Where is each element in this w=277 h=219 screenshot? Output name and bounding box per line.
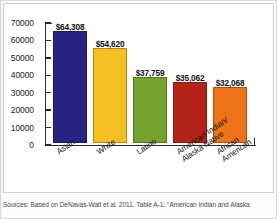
y-tick-mark <box>45 40 51 41</box>
y-tick-mark <box>45 127 51 128</box>
bar-value-label: $54,620 <box>88 39 132 49</box>
y-tick-mark <box>45 109 51 110</box>
y-tick-label: 50000 <box>3 53 34 63</box>
bar-value-label: $37,759 <box>128 68 172 78</box>
y-tick-mark <box>45 57 51 58</box>
bar-value-label: $64,308 <box>48 22 92 32</box>
y-tick-label: 0 <box>3 140 34 150</box>
y-tick-label: 60000 <box>3 35 34 45</box>
bar[interactable] <box>133 77 167 143</box>
source-caption: Sources: Based on DeNavas-Walt et al. 20… <box>3 201 274 208</box>
bar-value-label: $35,062 <box>168 73 212 83</box>
figure-container: 010000200003000040000500006000070000 $64… <box>0 0 277 219</box>
bar[interactable] <box>93 48 127 143</box>
bar[interactable] <box>53 31 87 143</box>
x-axis-end-cap <box>254 138 255 146</box>
y-tick-label: 40000 <box>3 70 34 80</box>
y-tick-label: 30000 <box>3 88 34 98</box>
y-tick-mark <box>45 92 51 93</box>
y-tick-label: 70000 <box>3 18 34 28</box>
chart-panel: 010000200003000040000500006000070000 $64… <box>3 3 274 193</box>
y-tick-label: 20000 <box>3 105 34 115</box>
y-tick-mark <box>45 144 51 145</box>
y-tick-label: 10000 <box>3 123 34 133</box>
bar-value-label: $32,068 <box>208 78 252 88</box>
y-tick-mark <box>45 75 51 76</box>
plot-area: 010000200003000040000500006000070000 $64… <box>4 4 273 192</box>
